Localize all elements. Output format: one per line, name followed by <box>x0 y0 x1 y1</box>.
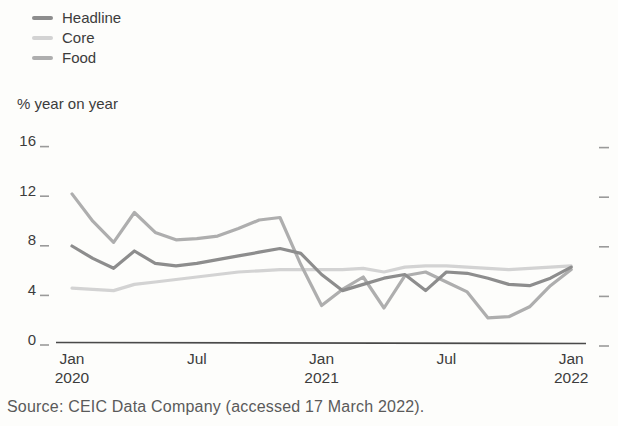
chart-plot-area: 0481216Jan2020JulJan2021JulJan2022 <box>0 0 618 426</box>
y-tick-label-16: 16 <box>19 132 36 149</box>
y-tick-label-8: 8 <box>28 231 36 248</box>
x-tick-year-24: 2022 <box>554 369 588 386</box>
y-tick-label-12: 12 <box>19 182 36 199</box>
series-line-core <box>72 266 571 291</box>
inflation-line-chart-figure: HeadlineCoreFood % year on year 0481216J… <box>0 0 618 426</box>
series-line-food <box>72 194 571 318</box>
x-tick-month-12: Jan <box>309 350 334 367</box>
source-note: Source: CEIC Data Company (accessed 17 M… <box>7 398 425 416</box>
x-tick-year-12: 2021 <box>304 369 338 386</box>
x-axis-line <box>56 343 586 344</box>
x-tick-month-0: Jan <box>60 350 85 367</box>
y-tick-label-0: 0 <box>28 331 36 348</box>
x-tick-year-0: 2020 <box>55 369 90 386</box>
x-tick-month-18: Jul <box>436 350 456 367</box>
y-tick-label-4: 4 <box>28 281 36 298</box>
x-tick-month-24: Jan <box>559 350 584 367</box>
x-tick-month-6: Jul <box>187 350 207 367</box>
